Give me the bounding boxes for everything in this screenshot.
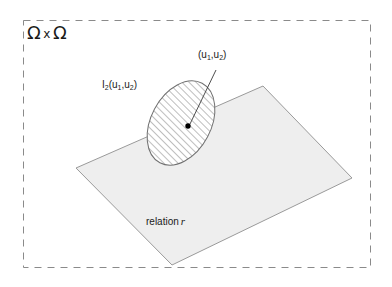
universe-label: ΩxΩ	[27, 24, 67, 42]
figure-container: ΩxΩ (u1,u2) I2(u1,u2) relationr	[0, 0, 392, 287]
pair-separator: ,u	[211, 49, 219, 60]
interval-args-open: (u	[109, 79, 118, 90]
relation-plane-label: relationr	[146, 216, 185, 227]
interval-region-label: I2(u1,u2)	[102, 80, 137, 91]
universe-symbol-right: Ω	[53, 22, 67, 43]
diagram-canvas	[0, 0, 392, 287]
pair-close-paren: )	[223, 49, 226, 60]
interval-args-close: )	[134, 79, 137, 90]
relation-word: relation	[146, 216, 179, 227]
cartesian-product-symbol: x	[41, 27, 53, 41]
universe-symbol-left: Ω	[27, 22, 41, 43]
point-marker	[185, 123, 190, 128]
pair-open-paren: (u	[198, 49, 207, 60]
interval-arg-separator: ,u	[122, 79, 130, 90]
relation-symbol: r	[179, 215, 185, 227]
point-pair-label: (u1,u2)	[198, 50, 226, 61]
